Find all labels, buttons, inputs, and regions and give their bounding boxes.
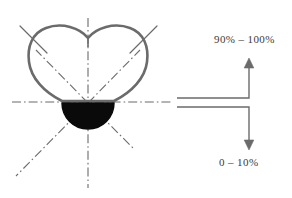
leader-line-upper <box>177 66 249 98</box>
diagonal-upper-left <box>36 50 88 103</box>
upper-percentage-label: 90% – 100% <box>214 33 275 45</box>
filled-semicircle <box>62 103 114 129</box>
dimension-bracket <box>177 66 249 142</box>
leader-line-lower <box>177 107 249 142</box>
diagonal-upper-right <box>88 50 140 103</box>
arrow-up-icon <box>244 58 254 68</box>
arrow-down-icon <box>244 140 254 150</box>
figure-canvas: 90% – 100% 0 – 10% <box>0 0 292 198</box>
technical-diagram <box>0 0 292 198</box>
lower-percentage-label: 0 – 10% <box>219 156 258 168</box>
